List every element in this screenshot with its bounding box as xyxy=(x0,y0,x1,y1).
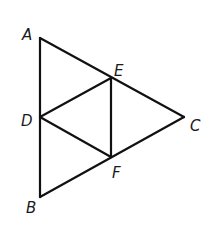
label-d: D xyxy=(21,112,33,130)
label-c: C xyxy=(190,117,201,135)
segment-df xyxy=(40,117,111,157)
triangle-diagram: A B C D E F xyxy=(0,0,213,245)
label-e: E xyxy=(114,62,124,80)
label-b: B xyxy=(26,199,36,217)
segment-de xyxy=(40,78,111,117)
label-f: F xyxy=(112,164,121,182)
diagram-canvas: A B C D E F xyxy=(0,0,213,245)
label-a: A xyxy=(21,26,32,44)
